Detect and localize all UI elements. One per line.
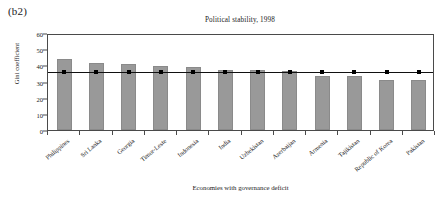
bar xyxy=(121,64,136,130)
data-point-marker xyxy=(352,70,356,74)
bar xyxy=(218,70,233,130)
bar xyxy=(347,76,362,130)
data-point-marker xyxy=(288,70,292,74)
y-tick-mark xyxy=(43,131,47,132)
y-tick-label: 60 xyxy=(27,31,43,38)
reference-line xyxy=(48,72,433,73)
data-point-marker xyxy=(385,70,389,74)
x-axis-title: Economies with governance deficit xyxy=(47,184,434,191)
chart-title: Political stability, 1998 xyxy=(46,16,434,24)
y-axis-title: Gini coefficient xyxy=(13,18,20,110)
data-point-marker xyxy=(159,70,163,74)
data-point-marker xyxy=(62,70,66,74)
bar xyxy=(153,66,168,130)
data-point-marker xyxy=(256,70,260,74)
figure-panel-b2: (b2) Political stability, 1998 010203040… xyxy=(0,0,448,200)
y-tick-label: 40 xyxy=(27,63,43,70)
y-tick-mark xyxy=(43,66,47,67)
data-point-marker xyxy=(320,70,324,74)
bar xyxy=(250,70,265,130)
y-tick-label: 20 xyxy=(27,95,43,102)
y-tick-mark xyxy=(43,50,47,51)
data-point-marker xyxy=(127,70,131,74)
bar xyxy=(379,80,394,130)
y-tick-label: 50 xyxy=(27,47,43,54)
y-tick-mark xyxy=(43,82,47,83)
plot-area xyxy=(47,34,434,131)
y-tick-mark xyxy=(43,98,47,99)
data-point-marker xyxy=(191,70,195,74)
data-point-marker xyxy=(417,70,421,74)
data-point-marker xyxy=(94,70,98,74)
x-tick-mark xyxy=(47,131,48,135)
y-tick-label: 10 xyxy=(27,111,43,118)
data-point-marker xyxy=(223,70,227,74)
y-tick-mark xyxy=(43,34,47,35)
y-tick-label: 30 xyxy=(27,79,43,86)
plot-inner xyxy=(48,35,433,130)
y-tick-mark xyxy=(43,114,47,115)
y-axis-tick-labels: 0102030405060 xyxy=(24,0,43,200)
bar xyxy=(315,76,330,130)
y-tick-label: 0 xyxy=(27,128,43,135)
